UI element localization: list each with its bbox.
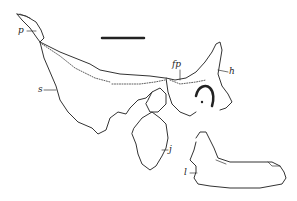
maxilla-upper-edge (40, 42, 165, 78)
label-j: j (169, 145, 172, 154)
maxilla-lower-edge (40, 42, 152, 134)
postorbital-outline (166, 42, 232, 110)
lower-jaw-outline (190, 132, 286, 188)
label-fp: fp (172, 60, 181, 69)
label-l: l (184, 168, 187, 177)
figure-illustration: p s fp h j l (0, 0, 297, 201)
bone-outline-drawing (0, 0, 297, 201)
orbit-shading (196, 86, 213, 106)
label-s: s (38, 85, 43, 94)
jugal-outline (132, 112, 168, 170)
label-h: h (229, 67, 235, 76)
label-p: p (18, 26, 24, 35)
